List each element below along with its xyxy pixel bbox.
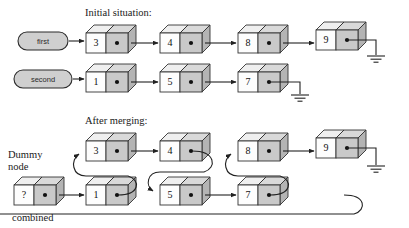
node-dummy: ? (14, 177, 64, 205)
pointer-pill-first: first (18, 32, 68, 50)
node-3-merged: 3 (86, 133, 136, 161)
node-value-9-merged: 9 (324, 142, 329, 153)
title-initial-situation: Initial situation: (85, 7, 152, 18)
node-value-8-merged: 8 (246, 145, 251, 156)
pointer-label-first: first (37, 37, 50, 46)
node-value-5-initial: 5 (168, 76, 173, 87)
ground-symbol-second-list (291, 95, 309, 101)
node-7-initial: 7 (238, 64, 288, 92)
node-3-initial: 3 (86, 25, 136, 53)
pointer-label-second: second (31, 75, 55, 84)
ground-symbol-first-list (367, 56, 385, 62)
node-1-merged: 1 (86, 177, 136, 205)
node-value-3-merged: 3 (94, 145, 99, 156)
ground-symbol-merged (367, 166, 385, 172)
node-value-1-merged: 1 (94, 189, 99, 200)
node-8-initial: 8 (238, 25, 288, 53)
node-5-merged: 5 (160, 177, 210, 205)
node-value-5-merged: 5 (168, 189, 173, 200)
node-4-initial: 4 (160, 25, 210, 53)
node-value-3-initial: 3 (94, 37, 99, 48)
node-1-initial: 1 (86, 64, 136, 92)
dummy-node-label-line1: Dummy (8, 149, 43, 160)
title-after-merging: After merging: (85, 115, 148, 126)
node-value-1-initial: 1 (94, 76, 99, 87)
diagram-canvas: Initial situation: After merging: first … (0, 0, 409, 228)
node-value-7-initial: 7 (246, 76, 251, 87)
linked-list-merge-diagram: Initial situation: After merging: first … (0, 0, 409, 228)
node-4-merged: 4 (160, 133, 210, 161)
node-value-9-initial: 9 (324, 34, 329, 45)
pointer-pill-second: second (14, 70, 72, 88)
node-value-dummy: ? (22, 189, 27, 200)
node-9-initial: 9 (316, 22, 366, 50)
node-value-8-initial: 8 (246, 37, 251, 48)
node-5-initial: 5 (160, 64, 210, 92)
node-9-merged: 9 (316, 130, 366, 158)
node-value-4-merged: 4 (168, 145, 173, 156)
dummy-node-label-line2: node (8, 161, 29, 172)
node-8-merged: 8 (238, 133, 288, 161)
node-value-4-initial: 4 (168, 37, 173, 48)
node-value-7-merged: 7 (246, 189, 251, 200)
node-7-merged: 7 (238, 177, 288, 205)
